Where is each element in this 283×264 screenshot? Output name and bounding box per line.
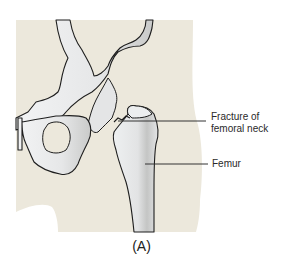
label-fracture-line1: Fracture of (211, 111, 283, 123)
label-fracture-line2: femoral neck (211, 123, 283, 135)
figure-caption: (A) (0, 238, 283, 254)
obturator-foramen (43, 122, 70, 153)
label-femur: Femur (212, 158, 241, 170)
label-fracture-of-femoral-neck: Fracture of femoral neck (211, 111, 283, 135)
